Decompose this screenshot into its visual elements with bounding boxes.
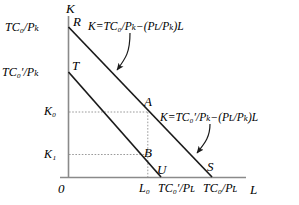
- point-label-U: U: [157, 163, 166, 176]
- y-tick-k1: K₁: [44, 148, 56, 160]
- point-label-S: S: [207, 160, 214, 173]
- point-label-B: B: [144, 146, 152, 159]
- point-label-A: A: [144, 95, 152, 108]
- point-label-T: T: [72, 59, 79, 72]
- y-tick-k0: K₀: [44, 105, 56, 117]
- equation-outer: K=TC₀/Pₖ−(Pʟ/Pₖ)L: [88, 21, 184, 33]
- isocost-figure: K L 0 TC₀/Pₖ TC₀′/Pₖ K₀ K₁ L₀ TC₀′/Pʟ TC…: [0, 0, 299, 205]
- annotation-arrow-inner: [197, 124, 210, 153]
- origin-label: 0: [58, 182, 65, 195]
- x-tick-tc0-pl: TC₀/Pʟ: [203, 182, 237, 194]
- annotation-arrow-outer: [117, 33, 130, 70]
- equation-inner: K=TC₀′/Pₖ−(Pʟ/Pₖ)L: [160, 112, 258, 124]
- x-axis-label: L: [250, 183, 257, 196]
- y-tick-tc0-pk: TC₀/Pₖ: [5, 21, 39, 33]
- point-label-R: R: [73, 15, 81, 28]
- x-tick-tc0prime-pl: TC₀′/Pʟ: [158, 182, 195, 194]
- x-tick-l0: L₀: [139, 182, 150, 194]
- isocost-line-inner: [69, 72, 162, 177]
- y-tick-tc0prime-pk: TC₀′/Pₖ: [2, 66, 39, 78]
